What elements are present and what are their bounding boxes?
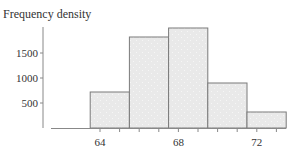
y-tick-label: 1000 [16,72,39,84]
x-axis-ticks: 646872 [95,129,277,148]
histogram-bars [90,28,286,128]
y-axis-ticks: 50010001500 [16,47,43,109]
x-tick-label: 64 [95,136,107,148]
histogram-bar [129,37,168,128]
x-tick-label: 72 [251,136,262,148]
histogram-bar [208,83,247,128]
histogram-bar [247,112,286,128]
x-tick-label: 68 [173,136,185,148]
histogram-bar [169,28,208,128]
y-tick-label: 1500 [16,47,39,59]
histogram-bar [90,92,129,128]
y-tick-label: 500 [22,97,39,109]
histogram-chart: 50010001500 646872 [0,0,291,155]
